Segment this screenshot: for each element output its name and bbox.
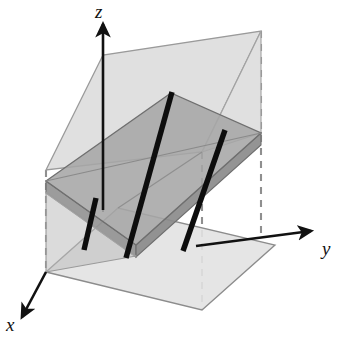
x-axis — [22, 272, 46, 317]
axis-label-y: y — [322, 239, 330, 258]
axis-label-z: z — [95, 2, 102, 21]
geometry-canvas — [0, 0, 344, 343]
geometry-figure: z y x — [0, 0, 344, 343]
axis-label-x: x — [6, 315, 14, 334]
